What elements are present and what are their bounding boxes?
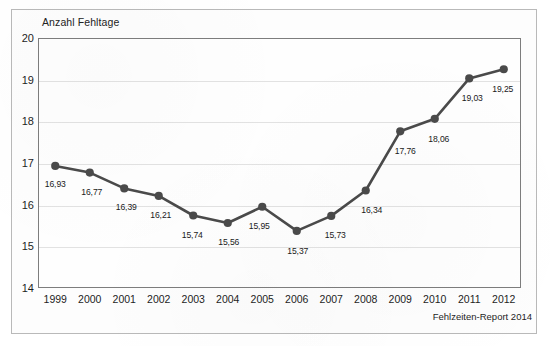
y-axis-tick-label: 17 <box>8 157 34 169</box>
y-axis-tick-label: 18 <box>8 115 34 127</box>
source-note: Fehlzeiten-Report 2014 <box>433 311 532 322</box>
data-point-label: 17,76 <box>395 146 416 156</box>
plot-area <box>38 38 521 288</box>
x-axis-tick-label: 2012 <box>482 293 526 305</box>
data-point-label: 18,06 <box>428 134 449 144</box>
y-axis-tick-label: 20 <box>8 32 34 44</box>
gridline <box>39 122 520 123</box>
data-point-label: 16,77 <box>81 187 102 197</box>
data-point-label: 16,21 <box>150 210 171 220</box>
gridline <box>39 164 520 165</box>
data-point-label: 16,39 <box>116 202 137 212</box>
chart-title: Anzahl Fehltage <box>42 16 119 28</box>
data-point-label: 19,25 <box>492 84 513 94</box>
y-axis-tick-label: 15 <box>8 240 34 252</box>
y-axis-tick-label: 16 <box>8 199 34 211</box>
gridline <box>39 206 520 207</box>
y-axis-tick-label: 14 <box>8 282 34 294</box>
data-point-label: 19,03 <box>462 93 483 103</box>
chart-figure: Anzahl Fehltage 20191817161514 199920002… <box>0 0 550 346</box>
data-point-label: 15,74 <box>182 230 203 240</box>
data-point-label: 15,56 <box>218 237 239 247</box>
data-point-label: 15,37 <box>287 246 308 256</box>
gridline <box>39 247 520 248</box>
data-point-label: 16,93 <box>45 179 66 189</box>
data-point-label: 16,34 <box>361 205 382 215</box>
y-axis-tick-label: 19 <box>8 74 34 86</box>
data-point-label: 15,95 <box>249 221 270 231</box>
data-point-label: 15,73 <box>325 230 346 240</box>
gridline <box>39 81 520 82</box>
